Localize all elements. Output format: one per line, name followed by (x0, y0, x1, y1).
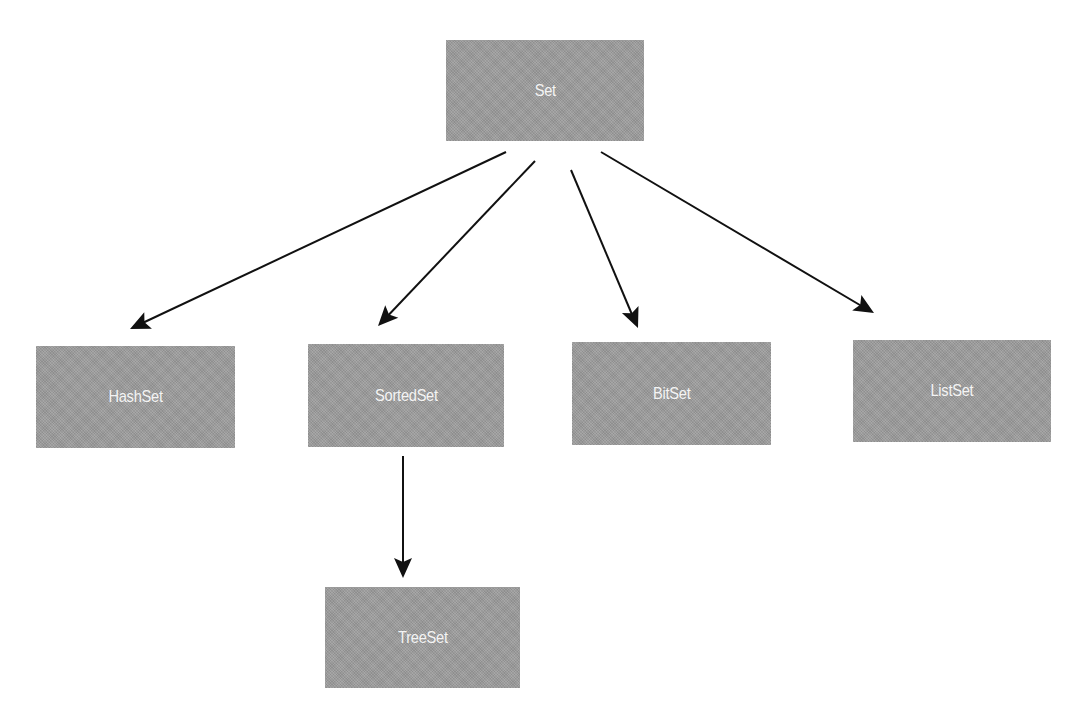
node-sortedset: SortedSet (308, 344, 504, 447)
edge-set-listset (601, 152, 870, 311)
node-treeset: TreeSet (325, 587, 520, 688)
arrowhead-listset-icon (852, 295, 878, 321)
node-label: BitSet (653, 384, 690, 404)
arrowhead-hashset-icon (126, 312, 152, 337)
node-set: Set (446, 40, 644, 141)
node-label: TreeSet (398, 628, 448, 648)
node-hashset: HashSet (36, 346, 235, 448)
node-label: SortedSet (375, 386, 438, 406)
node-label: Set (534, 81, 555, 101)
edge-set-hashset (134, 152, 506, 327)
node-label: HashSet (108, 387, 162, 407)
node-bitset: BitSet (572, 342, 771, 445)
edge-set-bitset (571, 170, 636, 324)
node-label: ListSet (931, 381, 974, 401)
arrowhead-bitset-icon (622, 306, 646, 331)
node-listset: ListSet (853, 340, 1051, 442)
edge-set-sortedset (381, 161, 535, 323)
